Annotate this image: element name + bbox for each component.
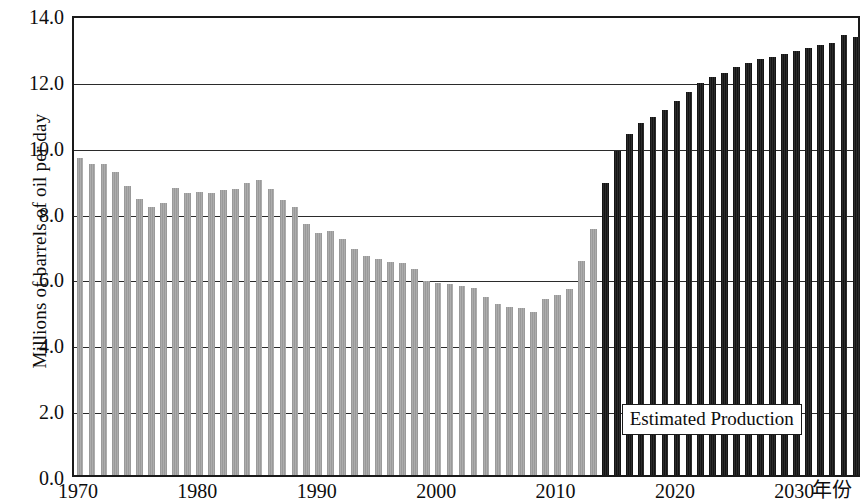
bar-2009 [542,299,549,475]
bar-2007 [518,308,525,475]
bar-1971 [89,164,96,475]
y-tick-label: 0.0 [0,468,64,488]
bar-2035 [853,37,860,475]
bar-1990 [315,233,322,475]
bar-1993 [351,249,358,475]
x-tick-label: 2020 [655,481,695,501]
bar-1974 [124,186,131,475]
bar-1997 [399,263,406,475]
y-tick-label: 2.0 [0,402,64,422]
x-tick-label: 2010 [536,481,576,501]
bar-2005 [495,304,502,475]
bar-2014 [602,183,609,475]
bar-1980 [196,192,203,475]
y-tick-label: 12.0 [0,73,64,93]
bar-2013 [590,229,597,475]
bar-2003 [471,288,478,475]
bar-2010 [554,295,561,475]
bar-1978 [172,188,179,475]
estimated-production-label: Estimated Production [622,404,802,435]
plot-inner: Estimated Production [74,18,858,475]
bar-1995 [375,259,382,475]
x-tick-label: 1990 [297,481,337,501]
bar-2002 [459,286,466,475]
bar-1998 [411,269,418,475]
bar-2012 [578,261,585,475]
gridline [74,347,858,348]
gridline [74,216,858,217]
bar-1979 [184,193,191,475]
bar-1972 [101,164,108,475]
bar-2006 [506,307,513,475]
bar-1988 [292,207,299,475]
bar-1985 [256,180,263,475]
bar-2031 [805,48,812,475]
chart-figure: Millions of barrels of oil per day 0.02.… [0,0,866,503]
bar-2033 [829,43,836,475]
y-tick-label: 4.0 [0,336,64,356]
bar-2015 [614,151,621,475]
bar-1986 [268,189,275,475]
x-tick-label: 1980 [177,481,217,501]
plot-area: Estimated Production [72,16,860,477]
bar-2008 [530,312,537,475]
y-tick-label: 10.0 [0,139,64,159]
bar-1992 [339,239,346,475]
bar-1987 [280,200,287,475]
bar-1984 [244,183,251,475]
bar-1975 [136,199,143,475]
bar-2001 [447,284,454,475]
gridline [74,84,858,85]
y-tick-label: 14.0 [0,7,64,27]
bar-2000 [435,283,442,475]
y-tick-label: 8.0 [0,205,64,225]
bar-1989 [303,224,310,475]
bar-1999 [423,281,430,475]
gridline [74,281,858,282]
bar-2004 [483,297,490,475]
bar-1991 [327,231,334,475]
bar-1994 [363,256,370,475]
x-axis-title: 年份 [812,480,852,500]
x-tick-label: 2000 [416,481,456,501]
bar-1973 [112,172,119,475]
y-axis-title: Millions of barrels of oil per day [29,41,51,441]
bar-1977 [160,203,167,475]
gridline [74,150,858,151]
bar-2011 [566,289,573,475]
bar-1996 [387,262,394,475]
bar-1983 [232,189,239,475]
bar-1981 [208,193,215,475]
x-tick-label: 2030 [774,481,814,501]
x-tick-label: 1970 [58,481,98,501]
bar-2032 [817,45,824,475]
bar-1982 [220,190,227,475]
bar-1970 [77,158,84,475]
bar-2034 [841,35,848,475]
bar-1976 [148,207,155,475]
y-tick-label: 6.0 [0,270,64,290]
